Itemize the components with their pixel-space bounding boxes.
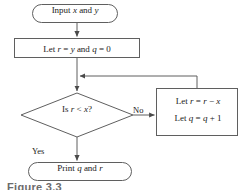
edge-feedback-loop (80, 76, 197, 88)
node-end-shape (29, 163, 132, 181)
figure-caption: Figure 3.3 (7, 181, 62, 190)
flowchart-canvas (0, 0, 250, 190)
node-decision-shape (21, 93, 133, 137)
flowchart-figure: Input x and y Let r = y and q = 0 Is r <… (0, 0, 250, 190)
node-subtract-shape (157, 89, 238, 136)
node-start-shape (33, 5, 118, 23)
node-init-shape (15, 39, 140, 58)
